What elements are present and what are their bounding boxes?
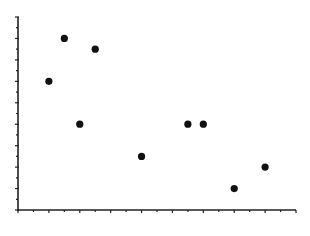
axes <box>15 17 296 213</box>
data-point <box>231 185 238 192</box>
data-point <box>61 35 68 42</box>
data-point <box>138 153 145 160</box>
scatter-chart <box>0 0 310 236</box>
data-point <box>262 164 269 171</box>
data-points <box>45 35 268 192</box>
data-point <box>92 46 99 53</box>
data-point <box>45 78 52 85</box>
data-point <box>184 121 191 128</box>
data-point <box>76 121 83 128</box>
data-point <box>200 121 207 128</box>
